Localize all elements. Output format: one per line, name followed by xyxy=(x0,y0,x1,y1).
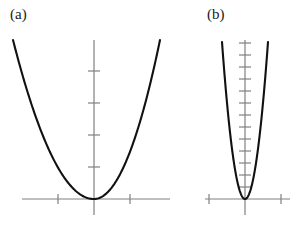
panel-a-parabola-curve xyxy=(13,40,160,199)
panel-label-b: (b) xyxy=(207,6,225,23)
plot-canvas xyxy=(0,0,295,232)
panel-label-a: (a) xyxy=(10,6,27,23)
panel-a-plot xyxy=(13,40,170,215)
parabola-figure: (a) (b) xyxy=(0,0,295,232)
panel-b-plot xyxy=(205,40,290,215)
